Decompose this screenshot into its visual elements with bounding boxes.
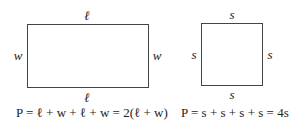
rectangle-shape — [27, 24, 149, 88]
square-left-label: s — [187, 48, 201, 61]
square-shape — [201, 23, 263, 86]
rectangle-perimeter-formula: P = ℓ + w + ℓ + w = 2(ℓ + w) — [16, 106, 168, 120]
square-top-label: s — [225, 8, 239, 21]
square-perimeter-formula: P = s + s + s + s = 4s — [181, 106, 289, 120]
rectangle-bottom-label: ℓ — [80, 91, 94, 104]
rectangle-top-label: ℓ — [80, 9, 94, 22]
rectangle-left-label: w — [11, 49, 25, 62]
square-right-label: s — [263, 48, 277, 61]
square-bottom-label: s — [225, 88, 239, 101]
rectangle-right-label: w — [150, 49, 164, 62]
